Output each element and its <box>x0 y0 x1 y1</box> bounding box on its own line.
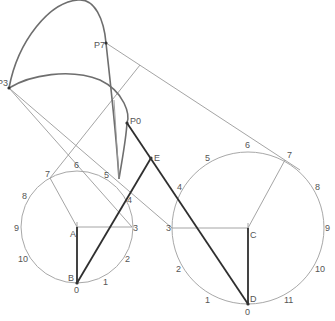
coupler-curve-inner <box>9 74 128 179</box>
left-div-6: 6 <box>74 160 79 170</box>
left-div-3: 3 <box>133 223 138 233</box>
right-div-9: 9 <box>325 223 330 233</box>
label-d: D <box>250 294 257 304</box>
left-div-5: 5 <box>104 170 109 180</box>
label-a: A <box>70 229 76 239</box>
right-div-1: 1 <box>205 295 210 305</box>
right-div-11: 11 <box>284 295 293 305</box>
left-div-2: 2 <box>125 254 130 264</box>
label-p7: P7 <box>94 40 105 50</box>
coupler-p0-d <box>127 123 248 304</box>
right-div-8: 8 <box>315 182 320 192</box>
label-p3: P3 <box>0 78 8 88</box>
label-e: E <box>154 153 160 163</box>
right-div-5: 5 <box>205 153 210 163</box>
coupler-curve-outer <box>9 0 119 179</box>
left-div-9: 9 <box>14 223 19 233</box>
label-b: B <box>68 273 74 283</box>
linkage-diagram: P7 P3 P0 E A B C D 0 1 2 3 4 5 6 7 8 9 1… <box>0 0 335 321</box>
label-p0: P0 <box>130 116 141 126</box>
right-div-4: 4 <box>177 182 182 192</box>
point-p0 <box>125 121 128 124</box>
right-div-2: 2 <box>176 264 181 274</box>
radius-right-c-7 <box>248 160 285 228</box>
construction-line-p7-to-right-7 <box>106 43 300 170</box>
left-div-4: 4 <box>127 195 132 205</box>
right-div-6: 6 <box>245 140 250 150</box>
construction-line-p3-to-right-3 <box>9 88 172 228</box>
left-div-7: 7 <box>45 169 50 179</box>
point-e <box>149 156 152 159</box>
left-div-8: 8 <box>22 191 27 201</box>
radius-left-a-7 <box>50 178 77 227</box>
right-div-3: 3 <box>166 223 171 233</box>
coupler-curve-chord <box>114 100 119 179</box>
label-c: C <box>250 230 257 240</box>
right-div-7: 7 <box>287 150 292 160</box>
left-div-10: 10 <box>18 254 28 264</box>
left-div-0: 0 <box>74 285 79 295</box>
right-div-0: 0 <box>245 307 250 317</box>
right-div-10: 10 <box>315 264 325 274</box>
left-div-1: 1 <box>103 277 108 287</box>
